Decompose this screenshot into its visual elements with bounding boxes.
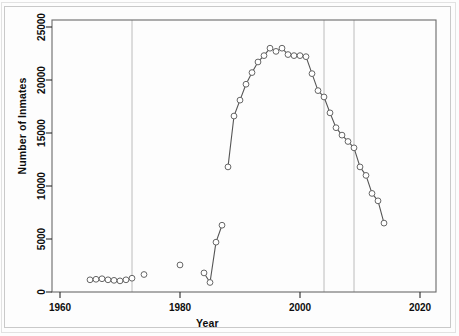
data-point-marker [363,173,369,179]
data-point-marker [207,280,213,286]
y-axis-title: Number of Inmates [16,71,28,181]
data-point-marker [249,70,255,76]
x-tick-label: 1960 [49,302,72,313]
data-point-marker [273,48,279,54]
data-point-marker [309,71,315,77]
data-point-marker [123,277,129,283]
data-point-marker [225,164,231,170]
data-point-marker [87,277,93,283]
data-point-marker [141,272,147,278]
x-tick-label: 2000 [289,302,312,313]
data-point-marker [381,220,387,226]
data-point-marker [117,278,123,284]
data-point-marker [219,222,225,228]
data-point-marker [93,276,99,282]
data-point-marker [105,277,111,283]
x-axis: 1960198020002020 [49,292,432,313]
data-point-marker [321,94,327,100]
y-axis: 0500010000150002000025000 [36,13,53,295]
data-point-marker [213,239,219,245]
data-point-marker [99,276,105,282]
data-point-marker [237,97,243,103]
scatter-chart: 1960198020002020 05000100001500020000250… [0,0,459,336]
data-point-marker [357,164,363,170]
data-point-marker [111,277,117,283]
data-point-marker [201,270,207,276]
data-point-marker [333,125,339,131]
x-tick-label: 2020 [409,302,432,313]
data-point-marker [339,132,345,138]
data-point-marker [129,275,135,281]
data-point-marker [327,110,333,116]
x-axis-title: Year [196,317,219,329]
data-point-marker [315,88,321,94]
data-point-marker [267,45,273,51]
data-point-marker [261,53,267,59]
data-point-marker [351,145,357,151]
data-point-marker [345,139,351,145]
y-tick-label: 20000 [36,66,47,94]
data-point-marker [291,53,297,59]
data-point-marker [369,191,375,197]
y-tick-label: 5000 [36,227,47,250]
x-tick-label: 1980 [169,302,192,313]
data-point-marker [285,52,291,58]
data-point-marker [177,262,183,268]
plot-frame [52,20,436,292]
y-tick-label: 0 [36,289,47,295]
data-point-marker [297,53,303,59]
plot-border [52,20,436,292]
y-tick-label: 10000 [36,172,47,200]
y-tick-label: 25000 [36,13,47,41]
data-point-marker [303,54,309,60]
vertical-reference-lines [132,20,354,292]
data-point-marker [375,198,381,204]
data-point-marker [279,45,285,51]
data-point-marker [231,113,237,119]
y-tick-label: 15000 [36,119,47,147]
figure-page: 1960198020002020 05000100001500020000250… [0,0,459,336]
data-point-marker [243,81,249,87]
data-point-marker [255,59,261,65]
